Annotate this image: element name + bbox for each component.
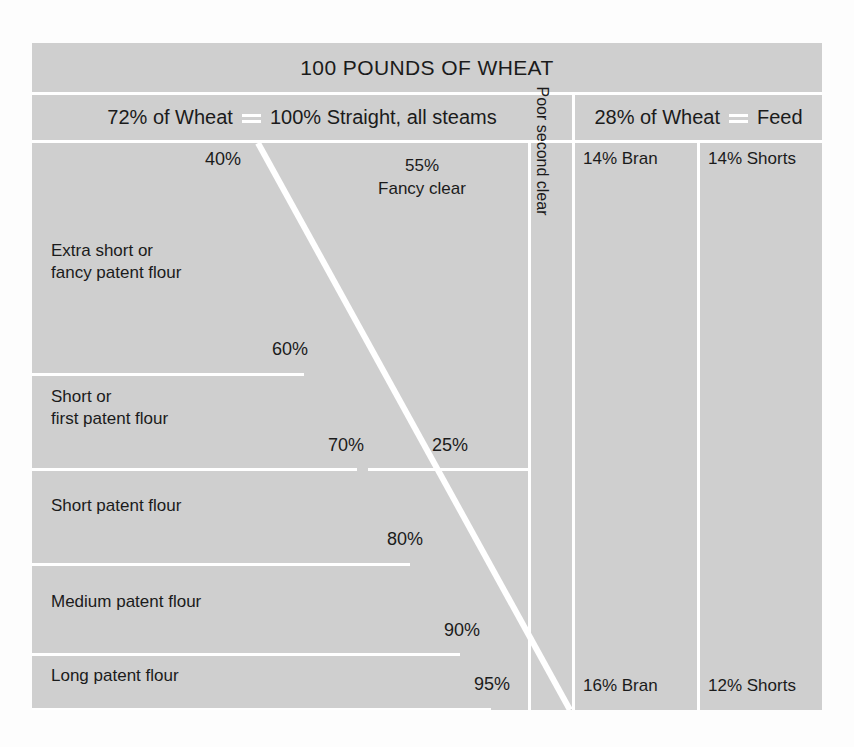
equals-icon-right <box>729 114 748 123</box>
grade-divider-70 <box>32 468 357 471</box>
flour-grade-label-1-line2: fancy patent flour <box>51 262 181 284</box>
shorts-bottom-label: 12% Shorts <box>708 676 796 696</box>
page-title: 100 POUNDS OF WHEAT <box>300 56 553 80</box>
fancy-clear-label: 55% Fancy clear <box>357 155 487 201</box>
percent-mark-40: 40% <box>205 149 241 170</box>
flour-grade-label-2: Short or first patent flour <box>51 386 168 431</box>
flour-grade-label-4-line1: Medium patent flour <box>51 591 201 613</box>
fancy-clear-percent: 55% <box>357 155 487 178</box>
flour-grade-label-5: Long patent flour <box>51 665 179 687</box>
second-clear-percent: 25% <box>432 435 468 456</box>
wheat-milling-diagram: 100 POUNDS OF WHEAT 72% of Wheat 100% St… <box>0 0 854 747</box>
grade-divider-80 <box>32 563 410 566</box>
equals-icon-left <box>242 114 261 123</box>
divider-band2-vertical <box>572 95 575 140</box>
poor-second-clear-label: Poor second clear <box>533 87 551 216</box>
poor-second-clear-column: Poor second clear <box>530 143 572 710</box>
flour-grade-label-3: Short patent flour <box>51 495 181 517</box>
split-band-left: 72% of Wheat 100% Straight, all steams <box>32 95 572 140</box>
feed-column-shorts: 14% Shorts 12% Shorts <box>700 143 822 710</box>
feed-label: Feed <box>757 106 803 129</box>
flour-grade-label-4: Medium patent flour <box>51 591 201 613</box>
wheat-share-right: 28% of Wheat <box>594 106 720 129</box>
split-band: 72% of Wheat 100% Straight, all steams 2… <box>32 95 822 140</box>
bran-top-label: 14% Bran <box>583 149 658 169</box>
flour-grade-label-3-line1: Short patent flour <box>51 495 181 517</box>
title-band: 100 POUNDS OF WHEAT <box>32 43 822 92</box>
flour-grade-label-2-line1: Short or <box>51 386 168 408</box>
flour-grade-label-1: Extra short or fancy patent flour <box>51 240 181 285</box>
percent-mark-80: 80% <box>387 529 423 550</box>
shorts-top-label: 14% Shorts <box>708 149 796 169</box>
grade-divider-90 <box>32 653 460 656</box>
fancy-clear-name: Fancy clear <box>357 178 487 201</box>
percent-mark-90: 90% <box>444 620 480 641</box>
percent-mark-60: 60% <box>272 339 308 360</box>
flour-grade-label-1-line1: Extra short or <box>51 240 181 262</box>
clear-divider-25 <box>368 468 528 471</box>
flour-grade-label-2-line2: first patent flour <box>51 408 168 430</box>
percent-mark-95: 95% <box>474 674 510 695</box>
grade-divider-95 <box>32 708 491 710</box>
feed-column-bran: 14% Bran 16% Bran <box>575 143 697 710</box>
percent-mark-70: 70% <box>328 435 364 456</box>
body-area: Extra short or fancy patent flour Short … <box>32 143 822 710</box>
flour-grade-label-5-line1: Long patent flour <box>51 665 179 687</box>
grade-divider-60 <box>32 373 304 376</box>
wheat-share-left: 72% of Wheat <box>107 106 233 129</box>
bran-bottom-label: 16% Bran <box>583 676 658 696</box>
straight-label: 100% Straight, all steams <box>270 106 497 129</box>
chart-panel: 100 POUNDS OF WHEAT 72% of Wheat 100% St… <box>32 43 822 710</box>
split-band-right: 28% of Wheat Feed <box>575 95 822 140</box>
